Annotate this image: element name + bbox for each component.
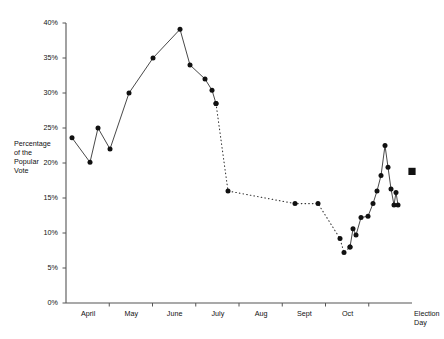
data-point (354, 233, 359, 238)
data-point (293, 201, 298, 206)
data-point (348, 245, 353, 250)
axes-group (66, 23, 412, 303)
data-point (351, 226, 356, 231)
data-point (88, 160, 93, 165)
data-point (379, 173, 384, 178)
y-tick-label: 35% (32, 54, 58, 62)
y-tick-label: 40% (32, 19, 58, 27)
x-tick-label: Oct (326, 310, 369, 319)
series-lines (72, 29, 398, 252)
data-point (316, 201, 321, 206)
x-tick-label: June (153, 310, 196, 319)
data-point (226, 189, 231, 194)
data-point (188, 63, 193, 68)
y-tick-label: 0% (32, 299, 58, 307)
data-point (342, 250, 347, 255)
data-point (396, 203, 401, 208)
x-tick-label: May (110, 310, 153, 319)
y-tick-label: 10% (32, 229, 58, 237)
y-tick-label: 5% (32, 264, 58, 272)
data-point (389, 186, 394, 191)
x-tick-label: July (196, 310, 239, 319)
data-point (108, 147, 113, 152)
data-point (127, 91, 132, 96)
data-point (178, 27, 183, 32)
data-point (210, 88, 215, 93)
series-line (350, 146, 398, 248)
x-tick-label: April (67, 310, 110, 319)
series-line (216, 104, 350, 253)
line-chart-plot (0, 0, 444, 339)
data-point (96, 126, 101, 131)
y-tick-label: 15% (32, 194, 58, 202)
data-point (383, 143, 388, 148)
series-line (72, 29, 216, 162)
data-point (359, 215, 364, 220)
y-tick-label: 20% (32, 159, 58, 167)
data-point (386, 165, 391, 170)
x-tick-label: Aug (240, 310, 283, 319)
data-point (366, 214, 371, 219)
data-point (203, 77, 208, 82)
y-tick-label: 25% (32, 124, 58, 132)
series-markers (70, 27, 416, 255)
data-point (371, 201, 376, 206)
x-tick-label: Sept (283, 310, 326, 319)
data-point (375, 189, 380, 194)
y-tick-label: 30% (32, 89, 58, 97)
data-point (151, 56, 156, 61)
data-point (70, 135, 75, 140)
chart-container: Percentage of the Popular Vote 0%5%10%15… (0, 0, 444, 339)
data-point (214, 101, 219, 106)
data-point-square (408, 168, 415, 175)
x-tick-label: Election Day (414, 310, 444, 327)
data-point (338, 236, 343, 241)
data-point (394, 190, 399, 195)
